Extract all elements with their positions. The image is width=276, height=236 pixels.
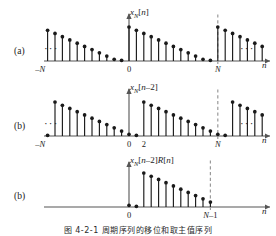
tick-label: 0 bbox=[111, 64, 147, 74]
panel-c-signal-label: xN[n–2]R[n] bbox=[130, 155, 174, 167]
tick-label: –N bbox=[22, 139, 58, 149]
tick-label: 2 bbox=[126, 139, 162, 149]
panel-b-axis-label: n bbox=[262, 135, 267, 145]
figure-caption: 图 4-2-1 周期序列的移位和取主值序列 bbox=[0, 224, 276, 235]
panel-a-signal-label: xN[n] bbox=[130, 7, 149, 19]
panel-c-axis-label: n bbox=[262, 206, 267, 216]
tick-label: –N bbox=[22, 64, 58, 74]
figure-container: (a) ··· ··· xN[n] n –N0N (b) ··· ··· xN[… bbox=[0, 0, 276, 236]
tick-label: N bbox=[200, 64, 236, 74]
panel-a: (a) ··· ··· xN[n] n –N0N bbox=[0, 4, 276, 80]
panel-c: (b) xN[n–2]R[n] n 0N–1 bbox=[0, 154, 276, 226]
panel-a-axis-label: n bbox=[262, 60, 267, 70]
tick-label: 0 bbox=[111, 210, 147, 220]
panel-b: (b) ··· ··· xN[n–2] n –N02N bbox=[0, 79, 276, 155]
tick-label: N bbox=[200, 139, 236, 149]
panel-b-signal-label: xN[n–2] bbox=[130, 82, 158, 94]
tick-label: N–1 bbox=[192, 210, 228, 220]
